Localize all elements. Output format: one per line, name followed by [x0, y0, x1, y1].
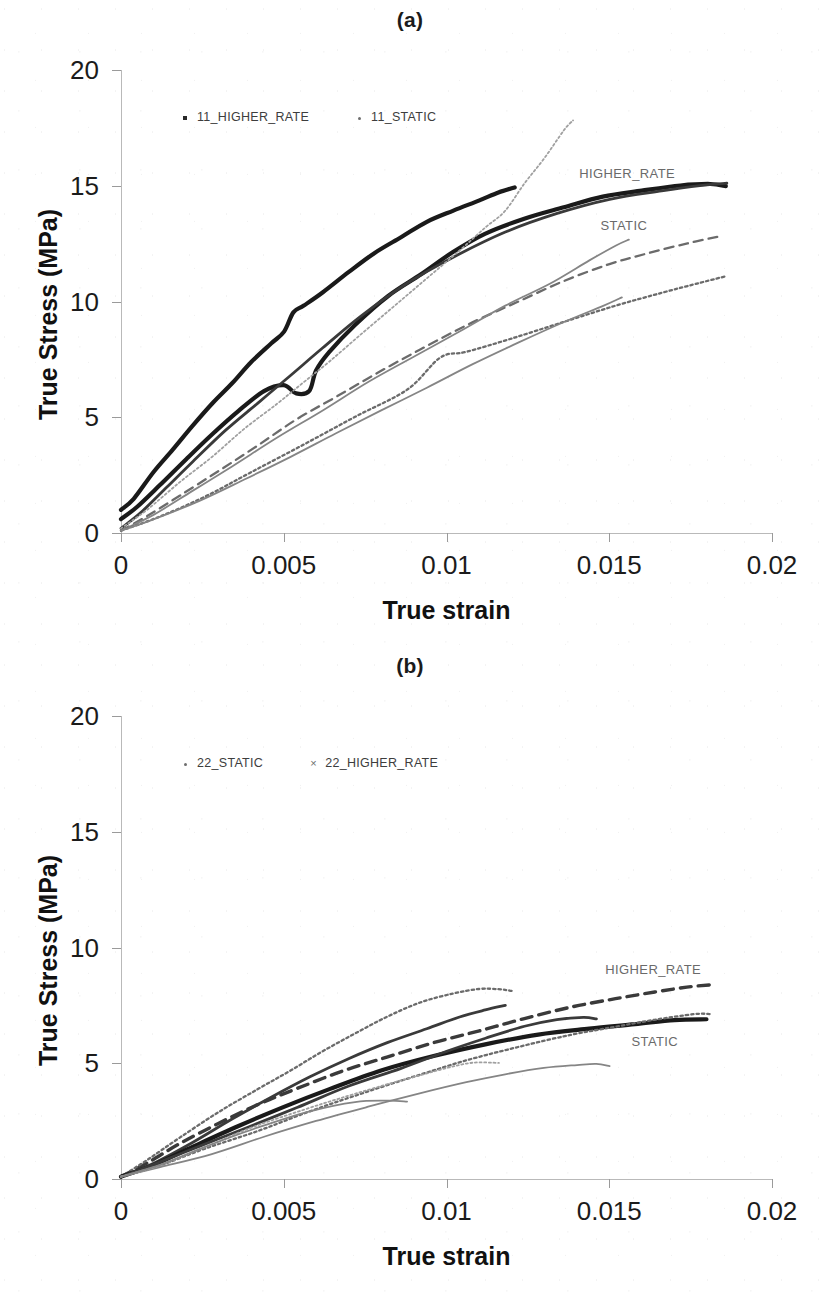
dot-marker-icon [181, 759, 190, 768]
panel-a-series-11_HIGHER_RATE_1 [121, 187, 515, 509]
panel-b-x-tick [772, 1179, 773, 1188]
panel-a-y-tick [112, 302, 121, 303]
panel-a-x-axis-label: True strain [121, 596, 772, 625]
panel-b-series-22_STATIC_1 [121, 1019, 706, 1176]
panel-a-annotation-higher_rate: HIGHER_RATE [579, 166, 675, 181]
panel-a-y-tick [112, 533, 121, 534]
panel-a-y-tick [112, 417, 121, 418]
cross-marker-icon: × [309, 759, 318, 768]
panel-b-y-axis-label: True Stress (MPa) [34, 801, 63, 1121]
panel-a-x-tick [121, 533, 122, 542]
panel-b-y-tick [112, 716, 121, 717]
panel-a-series-11_STATIC_2 [121, 240, 629, 531]
panel-a-y-axis-label: True Stress (MPa) [34, 155, 63, 475]
panel-b-legend-label: 22_HIGHER_RATE [325, 756, 438, 770]
panel-a-y-tick-label: 5 [85, 402, 99, 433]
panel-a-legend-label: 11_HIGHER_RATE [197, 110, 309, 124]
panel-a-series-11_STATIC_1 [121, 236, 720, 530]
panel-b-y-tick-label: 10 [70, 932, 99, 963]
panel-b-x-tick [609, 1179, 610, 1188]
panel-b-x-tick-label: 0.005 [251, 1196, 316, 1227]
panel-b-annotation-static: STATIC [631, 1034, 678, 1049]
panel-b-y-tick [112, 1179, 121, 1180]
panel-b-series-22_HIGHER_RATE_2 [121, 1005, 505, 1176]
panel-b-x-tick-label: 0.015 [577, 1196, 642, 1227]
panel-b-y-tick [112, 832, 121, 833]
panel-a-legend-item: 11_HIGHER_RATE [181, 110, 309, 124]
panel-b-annotation-higher_rate: HIGHER_RATE [605, 962, 701, 977]
panel-a-y-tick-label: 20 [70, 55, 99, 86]
panel-a-y-tick-label: 0 [85, 518, 99, 549]
panel-b-x-tick [121, 1179, 122, 1188]
panel-b-x-axis-label: True strain [121, 1242, 772, 1271]
panel-a-y-tick-label: 10 [70, 286, 99, 317]
panel-a-title: (a) [0, 8, 820, 32]
panel-b: (b) True Stress (MPa) True strain 051015… [0, 646, 820, 1292]
panel-a-plot-area: 0510152000.0050.010.0150.0211_HIGHER_RAT… [121, 70, 772, 533]
panel-a-x-tick-label: 0 [114, 550, 128, 581]
panel-b-curves [121, 716, 772, 1179]
panel-a-x-tick-label: 0.005 [251, 550, 316, 581]
panel-b-plot-area: 0510152000.0050.010.0150.0222_STATIC×22_… [121, 716, 772, 1179]
panel-a-y-tick-label: 15 [70, 170, 99, 201]
panel-a-y-tick [112, 70, 121, 71]
panel-b-x-tick-label: 0 [114, 1196, 128, 1227]
panel-b-y-tick-label: 20 [70, 701, 99, 732]
panel-b-y-tick [112, 1063, 121, 1064]
panel-a-legend: 11_HIGHER_RATE11_STATIC [181, 110, 436, 124]
panel-a-x-tick [284, 533, 285, 542]
panel-b-y-tick-label: 15 [70, 816, 99, 847]
panel-b-x-tick [447, 1179, 448, 1188]
panel-a-legend-label: 11_STATIC [371, 110, 436, 124]
panel-b-legend-item: ×22_HIGHER_RATE [309, 756, 438, 770]
panel-a-x-tick-label: 0.015 [577, 550, 642, 581]
panel-a-x-tick-label: 0.01 [421, 550, 472, 581]
panel-a: (a) True Stress (MPa) True strain 051015… [0, 0, 820, 646]
panel-b-legend: 22_STATIC×22_HIGHER_RATE [181, 756, 438, 770]
panel-a-x-tick [447, 533, 448, 542]
panel-b-y-tick [112, 948, 121, 949]
panel-b-x-tick-label: 0.01 [421, 1196, 472, 1227]
panel-a-x-tick-label: 0.02 [747, 550, 798, 581]
panel-b-y-tick-label: 0 [85, 1164, 99, 1195]
dot-marker-icon [355, 113, 364, 122]
panel-a-y-tick [112, 186, 121, 187]
panel-b-title: (b) [0, 654, 820, 678]
panel-a-curves [121, 70, 772, 533]
panel-b-y-tick-label: 5 [85, 1048, 99, 1079]
panel-b-legend-item: 22_STATIC [181, 756, 263, 770]
panel-b-x-tick-label: 0.02 [747, 1196, 798, 1227]
panel-b-legend-label: 22_STATIC [197, 756, 263, 770]
panel-a-x-tick [772, 533, 773, 542]
panel-b-x-tick [284, 1179, 285, 1188]
panel-a-x-tick [609, 533, 610, 542]
square-marker-icon [181, 113, 190, 122]
panel-a-legend-item: 11_STATIC [355, 110, 436, 124]
panel-a-series-11_STATIC_4 [121, 297, 622, 530]
panel-a-annotation-static: STATIC [601, 218, 648, 233]
